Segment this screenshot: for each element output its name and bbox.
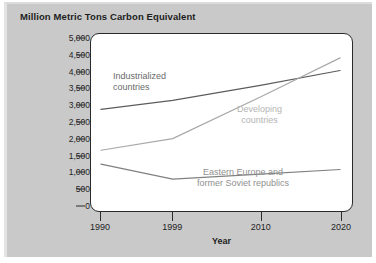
y-axis-tick-mark bbox=[76, 172, 85, 173]
x-axis-tick-label: 1990 bbox=[90, 222, 110, 232]
plot-area: Industrialized countries Developing coun… bbox=[90, 33, 353, 212]
series-lines bbox=[91, 34, 352, 211]
y-axis-tick-mark bbox=[76, 105, 85, 106]
y-axis-tick-mark bbox=[76, 155, 85, 156]
y-axis-tick-mark bbox=[76, 189, 85, 190]
series-line bbox=[101, 58, 340, 150]
y-axis-tick-mark bbox=[76, 54, 85, 55]
x-axis-tick-label: 2010 bbox=[251, 222, 271, 232]
x-axis-tick-mark bbox=[341, 212, 342, 221]
y-axis-tick-mark bbox=[76, 122, 85, 123]
x-axis-tick-label: 2020 bbox=[331, 222, 351, 232]
chart-title: Million Metric Tons Carbon Equivalent bbox=[20, 11, 196, 22]
y-axis-tick-mark bbox=[76, 71, 85, 72]
y-axis-tick-mark bbox=[76, 138, 85, 139]
x-axis-tick-mark bbox=[172, 212, 173, 221]
y-axis-tick-mark bbox=[76, 206, 85, 207]
x-axis-tick-mark bbox=[100, 212, 101, 221]
series-line bbox=[101, 164, 340, 179]
y-axis: 5,0004,5004,0003,5003,0002,5002,0001,500… bbox=[26, 33, 90, 212]
x-axis-title: Year bbox=[90, 236, 353, 246]
y-axis-tick-mark bbox=[76, 88, 85, 89]
y-axis-tick-mark bbox=[76, 38, 85, 39]
series-line bbox=[101, 71, 340, 110]
x-axis-tick-mark bbox=[261, 212, 262, 221]
chart-card: Million Metric Tons Carbon Equivalent 5,… bbox=[4, 2, 372, 257]
chart-screenshot: Million Metric Tons Carbon Equivalent 5,… bbox=[0, 0, 376, 263]
x-axis-tick-label: 1999 bbox=[162, 222, 182, 232]
